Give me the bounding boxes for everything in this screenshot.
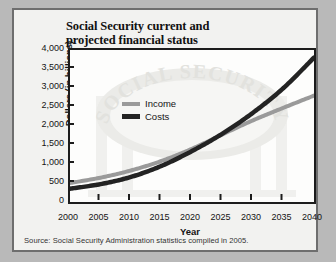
plot-inner: SOCIAL SECURITY Income Costs [70, 50, 314, 202]
y-tick-label: 3,500 [20, 63, 64, 72]
x-tick-label: 2030 [234, 213, 268, 222]
x-tick-label: 2040 [295, 213, 329, 222]
x-tick-label: 2010 [112, 213, 146, 222]
x-tick-label: 2015 [143, 213, 177, 222]
legend-swatch-costs [122, 114, 140, 119]
plot-area: SOCIAL SECURITY Income Costs [68, 48, 316, 204]
x-tick-label: 2025 [204, 213, 238, 222]
series-line-income [70, 96, 314, 183]
chart-series-lines [70, 50, 314, 202]
y-tick-label: 500 [20, 177, 64, 186]
y-tick-label: 1,500 [20, 139, 64, 148]
legend-label-costs: Costs [145, 111, 169, 122]
y-axis-tick-labels: 05001,0001,5002,0002,5003,0003,5004,000 [18, 48, 64, 200]
chart-title-line-1: Social Security current and [66, 20, 296, 34]
y-tick-label: 3,000 [20, 82, 64, 91]
chart-title-line-2: projected financial status [66, 34, 296, 48]
y-tick-label: 0 [20, 196, 64, 205]
x-tick-label: 2000 [51, 213, 85, 222]
y-tick-label: 1,000 [20, 158, 64, 167]
legend-swatch-income [122, 102, 140, 106]
legend-item-income: Income [122, 98, 176, 109]
x-tick-label: 2035 [265, 213, 299, 222]
y-tick-label: 4,000 [20, 44, 64, 53]
page-title: Social Security current and projected fi… [66, 20, 296, 47]
series-line-costs [70, 58, 314, 189]
y-tick-label: 2,000 [20, 120, 64, 129]
y-tick-label: 2,500 [20, 101, 64, 110]
source-note: Source: Social Security Administration s… [24, 236, 249, 245]
x-tick-label: 2020 [173, 213, 207, 222]
x-tick-label: 2005 [82, 213, 116, 222]
legend-label-income: Income [145, 98, 176, 109]
chart-legend: Income Costs [122, 98, 176, 124]
chart-card: Social Security current and projected fi… [12, 8, 318, 252]
x-axis-tick-labels: 200020052010201520202025203020352040 [68, 213, 312, 225]
legend-item-costs: Costs [122, 111, 176, 122]
